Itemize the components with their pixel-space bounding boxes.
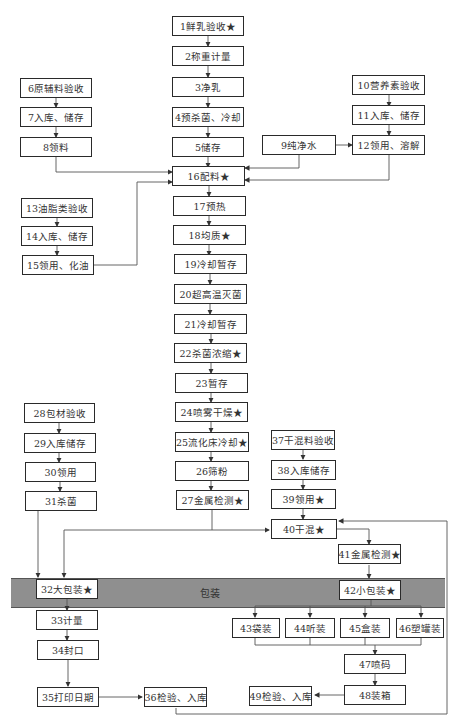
node-2: 2称重计量 bbox=[172, 46, 244, 66]
node-40: 40干混★ bbox=[271, 519, 337, 539]
node-6: 6原辅料验收 bbox=[20, 78, 92, 98]
node-29: 29入库储存 bbox=[24, 433, 96, 453]
node-25: 25流化床冷却★ bbox=[175, 432, 249, 452]
node-31: 31杀菌 bbox=[25, 491, 97, 511]
node-32: 32大包装★ bbox=[36, 579, 98, 599]
node-28: 28包材验收 bbox=[24, 403, 95, 423]
flowchart-canvas: 包装 bbox=[0, 0, 459, 728]
node-44: 44听装 bbox=[285, 618, 335, 638]
node-27: 27金属检测★ bbox=[176, 490, 249, 510]
node-19: 19冷却暂存 bbox=[174, 254, 247, 274]
node-41: 41金属检测★ bbox=[338, 544, 401, 564]
node-4: 4预杀菌、冷却 bbox=[172, 107, 244, 127]
node-21: 21冷却暂存 bbox=[174, 314, 247, 334]
node-1: 1鲜乳验收★ bbox=[172, 16, 244, 36]
node-47: 47喷码 bbox=[344, 654, 406, 674]
node-16: 16配料★ bbox=[172, 166, 245, 186]
node-20: 20超高温灭菌 bbox=[174, 284, 247, 304]
node-22: 22杀菌浓缩★ bbox=[174, 343, 247, 363]
node-42: 42小包装★ bbox=[339, 580, 401, 600]
node-3: 3净乳 bbox=[172, 77, 244, 97]
node-11: 11入库、储存 bbox=[352, 105, 425, 125]
node-46: 46塑罐装 bbox=[396, 618, 444, 638]
node-39: 39领用★ bbox=[271, 489, 336, 509]
node-9: 9纯净水 bbox=[262, 135, 336, 155]
node-26: 26筛粉 bbox=[175, 461, 249, 481]
node-10: 10营养素验收 bbox=[352, 75, 425, 95]
node-45: 45盒装 bbox=[340, 618, 390, 638]
node-14: 14入库、储存 bbox=[21, 226, 93, 246]
node-13: 13油脂类验收 bbox=[21, 198, 93, 218]
node-38: 38入库储存 bbox=[271, 460, 336, 480]
node-12: 12领用、溶解 bbox=[352, 135, 425, 155]
node-49: 49检验、入库 bbox=[249, 686, 312, 706]
node-23: 23暂存 bbox=[175, 373, 248, 393]
node-34: 34封口 bbox=[37, 640, 99, 660]
node-15: 15领用、化油 bbox=[22, 255, 94, 275]
node-24: 24喷雾干燥★ bbox=[175, 402, 248, 422]
node-37: 37干混料验收 bbox=[271, 430, 335, 450]
node-5: 5储存 bbox=[172, 137, 244, 157]
node-8: 8领料 bbox=[20, 137, 92, 157]
node-43: 43袋装 bbox=[232, 618, 280, 638]
node-18: 18均质★ bbox=[173, 225, 246, 245]
node-36: 36检验、入库 bbox=[144, 687, 207, 707]
node-33: 33计量 bbox=[36, 610, 98, 630]
node-17: 17预热 bbox=[173, 196, 246, 216]
node-7: 7入库、储存 bbox=[20, 107, 92, 127]
node-35: 35打印日期 bbox=[37, 687, 99, 707]
node-48: 48装箱 bbox=[344, 685, 406, 705]
node-30: 30领用 bbox=[25, 462, 96, 482]
